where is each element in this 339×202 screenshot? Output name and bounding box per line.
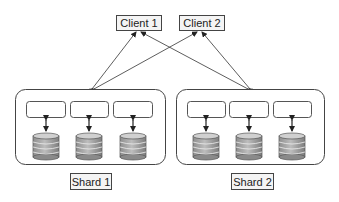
shard-1-group: Shard 1: [16, 90, 166, 190]
shard-2-label-box: Shard 2: [232, 174, 274, 190]
node-box: [71, 102, 109, 118]
database-icon: [279, 133, 305, 160]
database-icon: [120, 133, 146, 160]
node-box: [188, 102, 226, 118]
shard-1-label: Shard 1: [72, 176, 111, 188]
database-icon: [76, 133, 102, 160]
database-icon: [193, 133, 219, 160]
node-box: [27, 102, 66, 118]
arrow-client2-shard1: [94, 32, 197, 89]
client-1-box: Client 1: [117, 16, 162, 31]
shard-2-nodes: [188, 102, 312, 118]
database-icon: [33, 133, 59, 160]
sharding-diagram: Client 1 Client 2: [0, 0, 339, 202]
client-2-box: Client 2: [180, 16, 225, 31]
shard-1-databases: [33, 133, 146, 160]
arrow-client1-shard2: [141, 32, 248, 89]
database-icon: [236, 133, 262, 160]
connection-arrows: [92, 32, 250, 89]
client-2-label: Client 2: [183, 17, 220, 29]
client-1-label: Client 1: [120, 17, 157, 29]
arrow-client2-shard2: [202, 32, 250, 89]
shard-1-label-box: Shard 1: [71, 174, 112, 190]
arrow-client1-shard1: [92, 32, 136, 89]
node-box: [230, 102, 269, 118]
node-box: [274, 102, 312, 118]
shard-1-nodes: [27, 102, 153, 118]
node-box: [114, 102, 153, 118]
shard-2-label: Shard 2: [233, 176, 272, 188]
shard-2-databases: [193, 133, 305, 160]
shard-2-group: Shard 2: [177, 90, 325, 190]
